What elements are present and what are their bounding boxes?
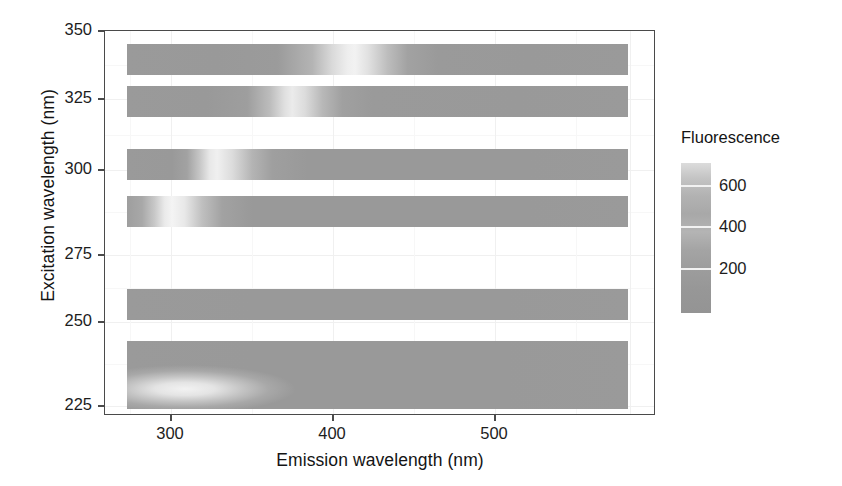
x-axis-tick: [170, 415, 172, 421]
gridline-horizontal: [105, 322, 654, 323]
gridline-horizontal: [105, 255, 654, 256]
x-axis-tick-label: 500: [464, 424, 524, 443]
fluorescence-eem-figure: Excitation wavelength (nm) 350 325 300 2…: [0, 0, 842, 486]
colorbar: [681, 163, 711, 313]
y-axis-tick-label: 300: [52, 159, 92, 178]
x-axis-tick-label: 300: [140, 424, 200, 443]
legend-title: Fluorescence: [681, 128, 780, 147]
y-axis-tick-label: 350: [52, 20, 92, 39]
y-axis-tick-label: 250: [52, 311, 92, 330]
y-axis-tick-label: 275: [52, 244, 92, 263]
heatmap-band: [127, 149, 628, 180]
heatmap-band: [127, 196, 628, 227]
x-axis-tick: [332, 415, 334, 421]
x-axis-title: Emission wavelength (nm): [104, 450, 656, 471]
y-axis-tick-label: 225: [52, 395, 92, 414]
x-axis-tick: [494, 415, 496, 421]
gridline-horizontal: [105, 135, 654, 136]
colorbar-tick: [681, 185, 711, 187]
heatmap-band: [127, 289, 628, 320]
colorbar-tick-label: 200: [719, 259, 747, 278]
x-axis-tick-label: 400: [302, 424, 362, 443]
heatmap-band: [127, 341, 628, 409]
gridline-vertical: [630, 31, 631, 414]
colorbar-tick: [681, 226, 711, 228]
heatmap-band: [127, 86, 628, 117]
colorbar-tick-label: 600: [719, 176, 747, 195]
colorbar-tick-label: 400: [719, 217, 747, 236]
colorbar-tick: [681, 268, 711, 270]
y-axis-tick-label: 325: [52, 88, 92, 107]
heatmap-panel: [104, 30, 655, 415]
heatmap-band: [127, 44, 628, 75]
